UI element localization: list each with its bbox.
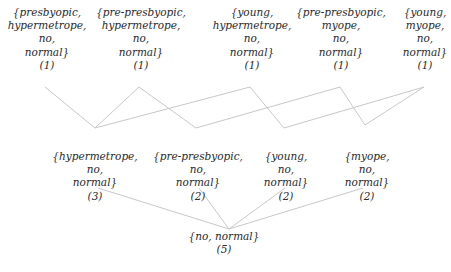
node-pre-presbyopic-myope-no-normal: {pre-presbyopic, myope, no, normal} (1) [296,6,386,72]
node-line: no, [96,32,186,45]
node-line: normal} [153,176,243,189]
node-count: (1) [296,59,386,72]
node-count: (5) [189,243,260,256]
node-line: normal} [344,176,389,189]
node-myope-no-normal: {myope, no, normal} (2) [344,150,389,203]
node-count: (1) [403,59,447,72]
node-line: {presbyopic, [8,6,87,19]
node-pre-presbyopic-hypermetrope-no-normal: {pre-presbyopic, hypermetrope, no, norma… [96,6,186,72]
edge-n2-m2 [139,87,196,128]
edge-n5-m4 [365,87,424,125]
node-line: normal} [52,176,137,189]
node-line: no, [213,32,292,45]
node-count: (1) [8,59,87,72]
node-no-normal: {no, normal} (5) [189,230,260,256]
node-line: {young, [264,150,308,163]
node-line: myope, [296,19,386,32]
node-young-myope-no-normal: {young, myope, no, normal} (1) [403,6,447,72]
node-line: hypermetrope, [96,19,186,32]
node-line: {young, [403,6,447,19]
node-line: no, [52,163,137,176]
node-line: normal} [96,46,186,59]
node-line: myope, [403,19,447,32]
edge-n1-m1 [45,87,95,128]
node-line: no, [403,32,447,45]
node-line: {pre-presbyopic, [296,6,386,19]
node-line: {pre-presbyopic, [96,6,186,19]
node-line: normal} [296,46,386,59]
node-pre-presbyopic-no-normal: {pre-presbyopic, no, normal} (2) [153,150,243,203]
node-line: no, [344,163,389,176]
node-count: (1) [96,59,186,72]
node-line: normal} [8,46,87,59]
edge-n4-m4 [340,87,365,125]
node-line: {myope, [344,150,389,163]
node-line: no, [8,32,87,45]
node-young-hypermetrope-no-normal: {young, hypermetrope, no, normal} (1) [213,6,292,72]
node-young-no-normal: {young, no, normal} (2) [264,150,308,203]
edge-n3-m1 [95,87,250,128]
node-presbyopic-hypermetrope-no-normal: {presbyopic, hypermetrope, no, normal} (… [8,6,87,72]
node-line: normal} [213,46,292,59]
node-line: {pre-presbyopic, [153,150,243,163]
edge-n5-m3 [284,87,424,128]
itemset-lattice-diagram: {presbyopic, hypermetrope, no, normal} (… [0,0,451,272]
node-line: hypermetrope, [8,19,87,32]
node-line: normal} [264,176,308,189]
edge-n4-m2 [196,87,340,128]
node-count: (1) [213,59,292,72]
node-hypermetrope-no-normal: {hypermetrope, no, normal} (3) [52,150,137,203]
node-line: {no, normal} [189,230,260,243]
node-count: (2) [264,190,308,203]
node-line: no, [264,163,308,176]
node-line: {hypermetrope, [52,150,137,163]
node-line: normal} [403,46,447,59]
node-count: (2) [344,190,389,203]
node-line: hypermetrope, [213,19,292,32]
node-line: no, [296,32,386,45]
node-line: {young, [213,6,292,19]
node-count: (2) [153,190,243,203]
node-line: no, [153,163,243,176]
node-count: (3) [52,190,137,203]
